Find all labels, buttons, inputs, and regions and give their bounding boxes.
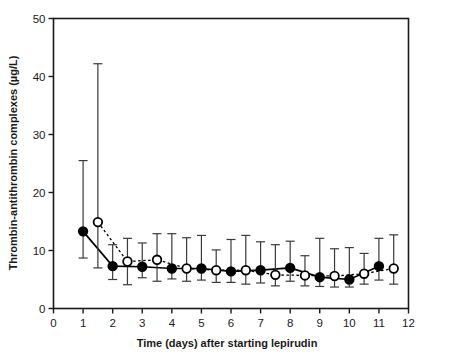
y-tick-label: 40: [33, 71, 46, 83]
data-point-open-circle: [123, 257, 132, 266]
data-point-filled-circle: [79, 227, 88, 236]
data-point-open-circle: [212, 266, 221, 275]
data-point-open-circle: [94, 218, 103, 227]
data-point-open-circle: [330, 272, 339, 281]
data-point-filled-circle: [138, 262, 147, 271]
chart-background: [0, 0, 454, 354]
x-tick-label: 6: [228, 317, 234, 329]
data-point-filled-circle: [168, 264, 177, 273]
y-axis-title: Thrombin-antithrombin complexes (µg/L): [7, 55, 19, 270]
x-tick-label: 5: [198, 317, 204, 329]
x-tick-label: 3: [139, 317, 145, 329]
data-point-filled-circle: [197, 264, 206, 273]
data-point-filled-circle: [315, 273, 324, 282]
data-point-open-circle: [301, 271, 310, 280]
y-tick-label: 50: [33, 13, 46, 25]
data-point-filled-circle: [227, 267, 236, 276]
data-point-open-circle: [389, 264, 398, 273]
data-point-filled-circle: [286, 264, 295, 273]
x-tick-label: 4: [169, 317, 176, 329]
x-tick-label: 2: [109, 317, 115, 329]
x-tick-label: 0: [50, 317, 56, 329]
x-tick-label: 7: [257, 317, 263, 329]
x-axis-title: Time (days) after starting lepirudin: [137, 337, 318, 349]
data-point-filled-circle: [108, 262, 117, 271]
y-tick-label: 20: [33, 187, 46, 199]
data-point-filled-circle: [345, 275, 354, 284]
data-point-open-circle: [153, 255, 162, 264]
y-tick-label: 0: [39, 303, 45, 315]
y-tick-label: 30: [33, 129, 46, 141]
thrombin-antithrombin-line-chart: 01020304050 0123456789101112 Time (days)…: [0, 0, 454, 354]
x-tick-label: 9: [317, 317, 323, 329]
x-tick-label: 10: [343, 317, 356, 329]
data-point-open-circle: [182, 264, 191, 273]
x-tick-label: 11: [373, 317, 385, 329]
y-tick-label: 10: [33, 245, 46, 257]
data-point-open-circle: [360, 269, 369, 278]
data-point-open-circle: [241, 266, 250, 275]
x-tick-label: 8: [287, 317, 293, 329]
x-tick-label: 12: [402, 317, 415, 329]
data-point-open-circle: [271, 271, 280, 280]
x-tick-label: 1: [80, 317, 86, 329]
chart-figure: 01020304050 0123456789101112 Time (days)…: [0, 0, 454, 354]
data-point-filled-circle: [375, 262, 384, 271]
